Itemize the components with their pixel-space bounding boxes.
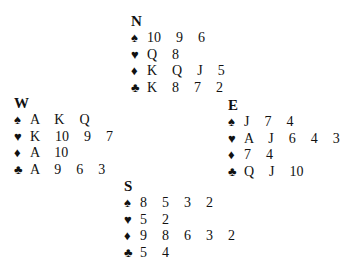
north-clubs-row: ♣ K 8 7 2	[131, 80, 225, 97]
seat-label-east: E	[228, 97, 340, 114]
diamond-icon: ♦	[14, 145, 30, 162]
diamond-icon: ♦	[131, 63, 147, 80]
north-clubs: K 8 7 2	[147, 80, 223, 97]
south-spades: 8 5 3 2	[140, 195, 213, 212]
south-diamonds: 9 8 6 3 2	[140, 228, 235, 245]
diamond-icon: ♦	[228, 147, 244, 164]
heart-icon: ♥	[228, 131, 244, 148]
spade-icon: ♠	[14, 112, 30, 129]
spade-icon: ♠	[131, 30, 147, 47]
south-hearts-row: ♥ 5 2	[124, 212, 235, 229]
west-hand: W ♠ A K Q ♥ K 10 9 7 ♦ A 10 ♣ A 9 6 3	[14, 95, 113, 178]
north-spades-row: ♠ 10 9 6	[131, 30, 225, 47]
north-spades: 10 9 6	[147, 30, 205, 47]
seat-label-south: S	[124, 178, 235, 195]
north-diamonds: K Q J 5	[147, 63, 225, 80]
south-diamonds-row: ♦ 9 8 6 3 2	[124, 228, 235, 245]
north-hearts-row: ♥ Q 8	[131, 47, 225, 64]
west-hearts: K 10 9 7	[30, 129, 113, 146]
club-icon: ♣	[124, 245, 140, 262]
club-icon: ♣	[131, 80, 147, 97]
north-hand: N ♠ 10 9 6 ♥ Q 8 ♦ K Q J 5 ♣ K 8 7 2	[131, 13, 225, 96]
west-spades-row: ♠ A K Q	[14, 112, 113, 129]
south-clubs: 5 4	[140, 245, 169, 262]
east-clubs: Q J 10	[244, 164, 304, 181]
east-spades: J 7 4	[244, 114, 293, 131]
south-spades-row: ♠ 8 5 3 2	[124, 195, 235, 212]
west-spades: A K Q	[30, 112, 90, 129]
north-diamonds-row: ♦ K Q J 5	[131, 63, 225, 80]
east-hand: E ♠ J 7 4 ♥ A J 6 4 3 ♦ 7 4 ♣ Q J 10	[228, 97, 340, 180]
south-clubs-row: ♣ 5 4	[124, 245, 235, 262]
diamond-icon: ♦	[124, 228, 140, 245]
west-clubs: A 9 6 3	[30, 162, 105, 179]
club-icon: ♣	[14, 162, 30, 179]
seat-label-west: W	[14, 95, 113, 112]
west-diamonds: A 10	[30, 145, 68, 162]
spade-icon: ♠	[228, 114, 244, 131]
spade-icon: ♠	[124, 195, 140, 212]
west-hearts-row: ♥ K 10 9 7	[14, 129, 113, 146]
east-hearts: A J 6 4 3	[244, 131, 340, 148]
east-clubs-row: ♣ Q J 10	[228, 164, 340, 181]
west-diamonds-row: ♦ A 10	[14, 145, 113, 162]
east-spades-row: ♠ J 7 4	[228, 114, 340, 131]
west-clubs-row: ♣ A 9 6 3	[14, 162, 113, 179]
heart-icon: ♥	[131, 47, 147, 64]
south-hand: S ♠ 8 5 3 2 ♥ 5 2 ♦ 9 8 6 3 2 ♣ 5 4	[124, 178, 235, 261]
heart-icon: ♥	[124, 212, 140, 229]
south-hearts: 5 2	[140, 212, 169, 229]
east-hearts-row: ♥ A J 6 4 3	[228, 131, 340, 148]
seat-label-north: N	[131, 13, 225, 30]
east-diamonds-row: ♦ 7 4	[228, 147, 340, 164]
north-hearts: Q 8	[147, 47, 179, 64]
east-diamonds: 7 4	[244, 147, 273, 164]
heart-icon: ♥	[14, 129, 30, 146]
